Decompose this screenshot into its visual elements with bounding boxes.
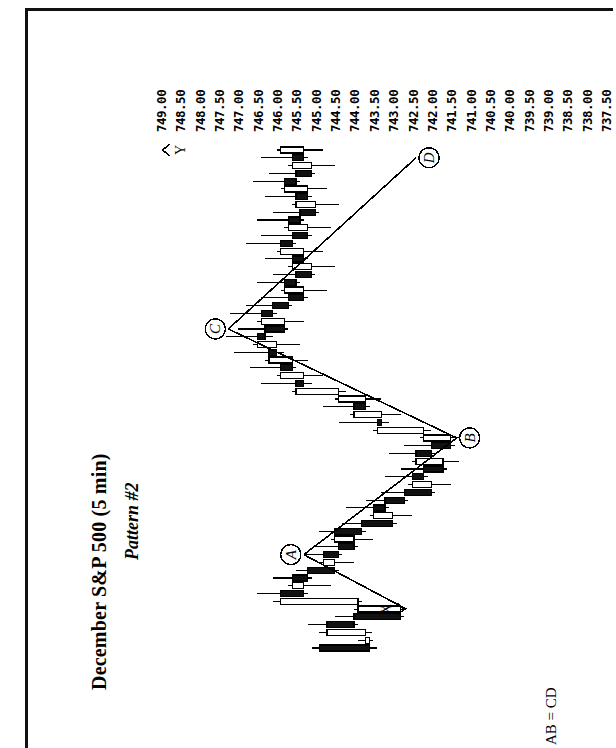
candle-body <box>296 380 304 386</box>
candlestick-plot: ABCDXY <box>0 0 616 748</box>
candle-body <box>261 318 284 324</box>
candle-body <box>284 279 296 285</box>
candle-body <box>327 622 354 628</box>
candle-body <box>265 326 284 332</box>
chart-page: December S&P 500 (5 min) Pattern #2 AB =… <box>0 0 616 748</box>
candle-body <box>284 178 296 184</box>
marker-label-y: Y <box>173 145 188 155</box>
candle-body <box>323 552 338 558</box>
candle-body <box>281 248 304 254</box>
candle-body <box>323 559 335 565</box>
candle-body <box>339 544 354 550</box>
candle-body <box>354 412 381 418</box>
candle-body <box>300 209 315 215</box>
candle-body <box>281 591 304 597</box>
candle-body <box>296 388 339 394</box>
candle-body <box>373 513 392 519</box>
candle-body <box>261 310 273 316</box>
candle-body <box>281 365 293 371</box>
candle-body <box>362 521 393 527</box>
candle-body <box>296 170 311 176</box>
pattern-markers: ABCDXY <box>163 144 480 615</box>
candle-body <box>292 233 307 239</box>
candle-body <box>385 497 404 503</box>
candle-body <box>273 303 288 309</box>
candle-body <box>319 645 369 651</box>
candle-body <box>296 194 308 200</box>
marker-label-x: X <box>379 604 394 614</box>
candle-body <box>281 598 358 604</box>
candle-body <box>281 240 293 246</box>
candle-body <box>373 505 385 511</box>
pivot-label-b: B <box>462 433 478 442</box>
candle-body <box>281 373 304 379</box>
candle-body <box>292 163 311 169</box>
candle-body <box>288 217 300 223</box>
candle-body <box>288 225 307 231</box>
candle-body <box>284 186 307 192</box>
candle-body <box>288 295 303 301</box>
candle-body <box>327 629 366 635</box>
pivot-label-d: D <box>421 152 437 164</box>
candle-body <box>354 404 366 410</box>
candle-body <box>366 637 370 643</box>
candle-body <box>335 528 362 534</box>
candle-body <box>257 334 265 340</box>
candle-body <box>416 450 431 456</box>
candle-body <box>296 201 315 207</box>
candle-body <box>412 474 424 480</box>
pivot-label-c: C <box>207 323 223 334</box>
candle-body <box>377 419 381 425</box>
candlestick-series <box>226 147 466 651</box>
candle-body <box>284 287 303 293</box>
candle-body <box>281 147 304 153</box>
candle-body <box>339 396 366 402</box>
candle-body <box>424 435 451 441</box>
candle-body <box>292 583 304 589</box>
candle-body <box>424 466 443 472</box>
candle-body <box>292 575 307 581</box>
pattern-leg-ab <box>304 438 457 555</box>
candle-body <box>412 482 431 488</box>
marker-arrow-y <box>163 144 170 156</box>
pivot-label-a: A <box>283 549 299 560</box>
candle-body <box>292 155 304 161</box>
candle-body <box>335 536 354 542</box>
candle-body <box>377 427 423 433</box>
candle-body <box>296 272 311 278</box>
candle-body <box>404 489 431 495</box>
